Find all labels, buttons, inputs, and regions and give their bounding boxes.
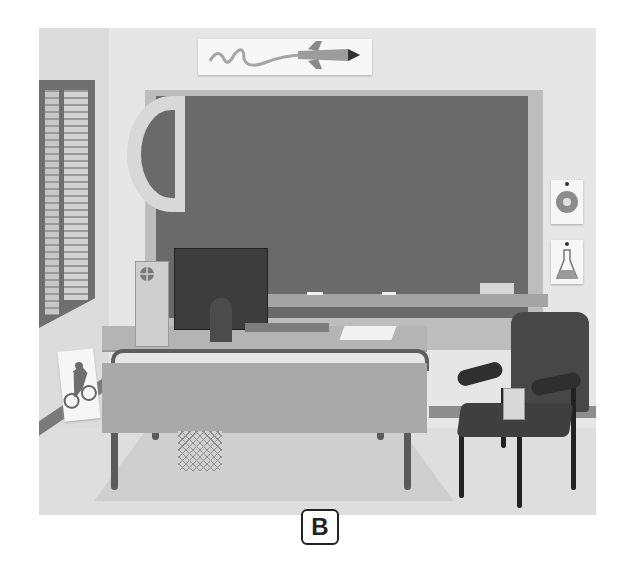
bicycle-poster	[57, 348, 100, 421]
chalk	[382, 292, 396, 295]
wastebasket	[178, 431, 222, 471]
chalk-tray	[256, 294, 548, 307]
fan-icon	[136, 262, 168, 346]
classroom-scene	[39, 28, 596, 515]
computer-tower	[135, 261, 169, 347]
desk-front-panel	[102, 363, 427, 433]
rocket-poster	[198, 39, 372, 75]
window-blinds	[45, 90, 59, 315]
flower-icon	[551, 180, 583, 224]
pencil-cup	[503, 388, 525, 420]
monitor-stand	[210, 298, 232, 342]
keyboard	[245, 323, 329, 332]
rocket-icon	[198, 39, 372, 75]
chair-leg	[517, 428, 522, 508]
chalk	[307, 292, 323, 295]
eraser	[480, 283, 514, 294]
chair-leg	[571, 388, 576, 490]
protractor-icon	[127, 94, 187, 214]
flask-poster	[551, 240, 583, 284]
flask-icon	[551, 240, 583, 284]
window-blinds-2	[64, 90, 88, 300]
chair-arm	[456, 360, 505, 387]
papers	[339, 326, 396, 340]
bicycle-icon	[57, 348, 100, 421]
flower-poster	[551, 180, 583, 224]
image-label: B	[301, 509, 339, 545]
